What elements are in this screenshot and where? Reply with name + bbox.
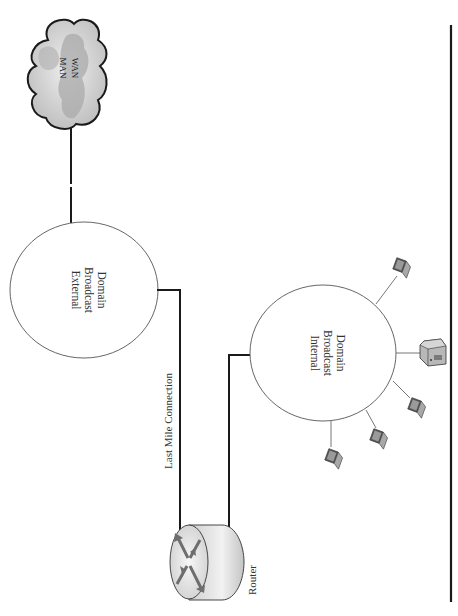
internal-domain-line-3: Domain: [335, 334, 347, 371]
laptop-icon: [406, 398, 427, 419]
cloud-label-man: MAN: [58, 57, 68, 79]
internal-link-line: [229, 355, 250, 528]
last-mile-label: Last Mile Connection: [162, 373, 174, 469]
external-broadcast-domain: External Broadcast Domain: [10, 222, 158, 358]
router: [170, 525, 244, 600]
laptop-icon: [391, 258, 412, 279]
internal-domain-line-2: Broadcast: [322, 330, 334, 377]
internal-broadcast-domain: Internal Broadcast Domain: [250, 285, 396, 421]
external-domain-line-2: Broadcast: [83, 267, 95, 314]
cloud-label-wan: WAN: [70, 58, 80, 79]
router-label: Router: [246, 565, 258, 595]
laptop-icon: [368, 429, 389, 450]
laptop-icon: [323, 449, 344, 470]
external-domain-line-1: External: [70, 271, 82, 310]
server-icon: [420, 339, 446, 366]
network-diagram: MAN WAN External Broadcast Domain Last M…: [0, 0, 458, 616]
external-domain-line-3: Domain: [96, 271, 108, 308]
cloud-man-wan: MAN WAN: [28, 20, 107, 129]
internal-domain-line-1: Internal: [309, 335, 321, 371]
